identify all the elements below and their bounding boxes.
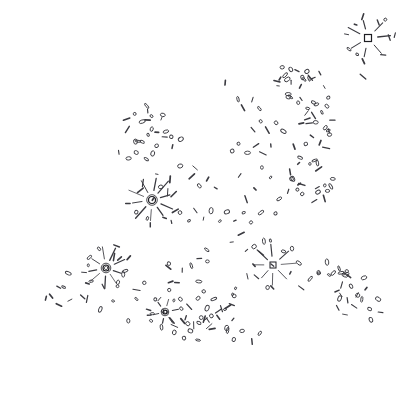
- scatter-mark-dash: [119, 150, 120, 154]
- scatter-mark-dash: [172, 145, 173, 149]
- cluster-mark-dash: [347, 298, 348, 303]
- scatter-mark-dash: [252, 339, 253, 345]
- background-rect: [0, 0, 410, 395]
- artwork-canvas: [0, 0, 410, 395]
- scatter-mark-dash: [354, 24, 356, 25]
- scatter-mark-dash: [167, 189, 168, 196]
- cluster-mark-dash: [306, 123, 312, 124]
- burst-top-right-tip-dash: [381, 55, 386, 56]
- scatter-mark-dash: [203, 217, 204, 220]
- scatter-mark-dash: [171, 220, 172, 223]
- scatter-mark-dash: [234, 220, 236, 221]
- scatter-mark-dash: [378, 312, 383, 313]
- cluster-mark-dash: [290, 169, 291, 175]
- burst-lower-left-ray: [105, 276, 106, 288]
- cluster-mark-dash: [299, 123, 304, 124]
- burst-center-left-tip-dash: [170, 176, 171, 183]
- scatter-mark-dash: [209, 328, 215, 329]
- burst-lower-left-tip-dash: [86, 283, 90, 284]
- mark-field-svg: [0, 0, 410, 395]
- scatter-mark-dash: [45, 296, 46, 300]
- burst-center-left-tip-dash: [156, 174, 159, 175]
